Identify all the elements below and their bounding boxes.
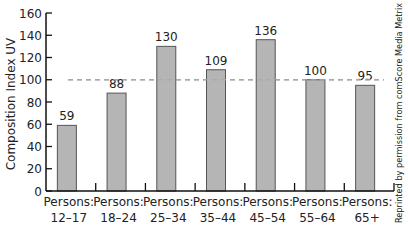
y-axis: 020406080100120140160 [19, 7, 52, 199]
x-category-label: Persons: [193, 195, 244, 209]
bar [57, 125, 76, 191]
bar-value-label: 136 [254, 24, 277, 38]
bar [356, 85, 375, 191]
y-axis-label: Composition Index UV [4, 37, 18, 170]
x-category-label: Persons: [292, 195, 343, 209]
bar-group: 100 [304, 64, 327, 191]
bar [157, 46, 176, 191]
x-category-range: 35–44 [200, 211, 237, 225]
x-category-label: Persons: [242, 195, 293, 209]
y-tick-label: 140 [19, 29, 42, 43]
bar [107, 93, 126, 191]
credit-note: Reprinted by permission from comScore Me… [394, 3, 404, 223]
x-category-label: Persons: [342, 195, 393, 209]
x-category-label: Persons: [143, 195, 194, 209]
bar-group: 95 [356, 69, 375, 191]
bar-value-label: 100 [304, 64, 327, 78]
x-category-range: 18–24 [100, 211, 137, 225]
bar-value-label: 130 [155, 30, 178, 44]
x-category-label: Persons: [93, 195, 144, 209]
x-category-range: 55–64 [299, 211, 336, 225]
x-category-range: 65+ [354, 211, 379, 225]
bar-value-label: 95 [358, 69, 373, 83]
bar-group: 88 [107, 77, 126, 191]
bar [306, 80, 325, 191]
x-category-range: 25–34 [150, 211, 187, 225]
y-tick-label: 100 [19, 73, 42, 87]
bar-value-label: 59 [59, 109, 74, 123]
bar-chart: 020406080100120140160 598813010913610095… [0, 0, 408, 226]
y-tick-label: 20 [27, 162, 42, 176]
y-tick-label: 0 [34, 185, 42, 199]
y-tick-label: 40 [27, 140, 42, 154]
bar [207, 70, 226, 191]
y-tick-label: 120 [19, 51, 42, 65]
bar-group: 59 [57, 109, 76, 191]
bar-group: 136 [254, 24, 277, 191]
x-category-range: 12–17 [51, 211, 88, 225]
x-category-label: Persons: [44, 195, 95, 209]
y-tick-label: 160 [19, 7, 42, 21]
bar [256, 40, 275, 191]
bars: 598813010913610095 [57, 24, 384, 191]
bar-group: 130 [155, 30, 178, 191]
y-tick-label: 80 [27, 96, 42, 110]
bar-value-label: 109 [205, 54, 228, 68]
y-tick-label: 60 [27, 118, 42, 132]
chart-canvas: 020406080100120140160 598813010913610095… [0, 0, 408, 226]
bar-group: 109 [205, 54, 228, 191]
x-category-range: 45–54 [249, 211, 286, 225]
